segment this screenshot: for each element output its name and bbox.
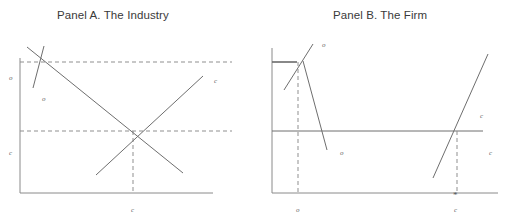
panel-a-y-mid-label: c bbox=[9, 149, 13, 157]
panel-b-right-upper-label: c bbox=[480, 112, 484, 120]
panel-b-axes bbox=[272, 48, 498, 193]
panel-a-supply-label: c bbox=[214, 77, 218, 85]
panel-b-lower-curve-label: o bbox=[340, 149, 344, 157]
panel-a-demand-label: o bbox=[42, 95, 46, 103]
figure-canvas: o o c c c o o bbox=[0, 0, 508, 223]
panel-b-x-right-label: c bbox=[454, 206, 458, 214]
panel-a-steep-segment bbox=[33, 46, 44, 88]
panel-a-x-axis-label: c bbox=[131, 206, 135, 214]
panel-a-plot: o o c c c bbox=[9, 46, 232, 214]
panel-b-plot: o o o c c * c bbox=[272, 41, 498, 214]
panel-a-demand-curve bbox=[27, 47, 183, 173]
panel-b-upper-curve-label: o bbox=[322, 41, 326, 49]
panel-a-supply-curve bbox=[96, 76, 203, 175]
panel-a-y-top-label: o bbox=[9, 74, 13, 82]
panel-b-star-marker: * bbox=[453, 190, 458, 200]
panel-a-axes bbox=[20, 58, 213, 193]
panel-b-right-lower-label: c bbox=[489, 149, 493, 157]
panel-b-x-left-label: o bbox=[296, 206, 300, 214]
two-panel-figure: Panel A. The Industry Panel B. The Firm … bbox=[0, 0, 508, 223]
panel-b-left-falling-curve bbox=[303, 61, 327, 150]
